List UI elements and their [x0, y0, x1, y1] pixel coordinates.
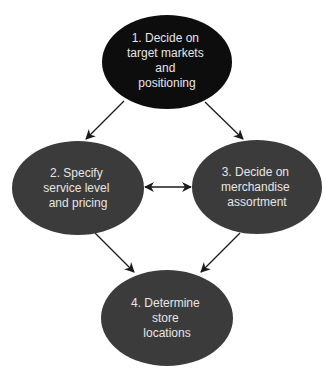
node-4-line-1: 4. Determine: [131, 296, 200, 310]
arrow-2-to-4: [95, 233, 134, 272]
arrow-3-to-4: [201, 233, 240, 272]
node-store-locations: 4. Determine store locations: [101, 270, 233, 366]
arrow-1-to-2: [86, 101, 124, 139]
node-4-line-3: locations: [143, 326, 190, 340]
node-3-line-1: 3. Decide on: [222, 165, 289, 179]
node-1-line-4: positioning: [138, 76, 195, 90]
node-4-line-2: store: [152, 311, 179, 325]
retail-strategy-diagram: 1. Decide on target markets and position…: [0, 0, 324, 370]
node-2-line-3: and pricing: [49, 196, 108, 210]
svg-text:2. Specify service level: 2. Specify service level and pricing: [43, 166, 112, 210]
node-1-line-3: and: [155, 61, 175, 75]
svg-text:3. Decide on merchandise: 3. Decide on merchandise assortment: [221, 165, 293, 209]
node-2-line-2: service level: [43, 181, 109, 195]
node-target-markets: 1. Decide on target markets and position…: [102, 15, 232, 109]
node-1-line-1: 1. Decide on: [132, 31, 199, 45]
node-2-line-1: 2. Specify: [50, 166, 103, 180]
node-3-line-3: assortment: [227, 195, 287, 209]
node-merchandise-assortment: 3. Decide on merchandise assortment: [192, 140, 322, 234]
arrow-1-to-3: [205, 102, 243, 139]
node-service-pricing: 2. Specify service level and pricing: [12, 141, 144, 235]
node-3-line-2: merchandise: [221, 180, 290, 194]
node-1-line-2: target markets: [127, 46, 204, 60]
